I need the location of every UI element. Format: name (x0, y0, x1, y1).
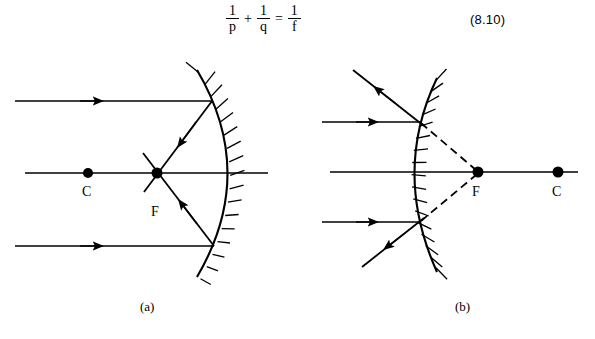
reflected-ray-upper-a (144, 101, 212, 192)
center-of-curvature-label-a: C (82, 184, 91, 199)
focal-point-label-a: F (151, 204, 159, 219)
focal-point-label-b: F (472, 184, 480, 199)
reflected-ray-lower-a (143, 153, 214, 246)
mirror-ray-diagrams: C F (a) (0, 0, 595, 339)
mirror-hatching-b (412, 69, 448, 279)
figure-page: 1 p + 1 q = 1 f (8.10) (0, 0, 595, 339)
ray-diagram-svg: C F (a) (0, 0, 595, 339)
focal-point-a (152, 168, 163, 179)
center-of-curvature-point-a (83, 168, 93, 178)
reflected-ray-lower-b-arrow (387, 233, 405, 247)
center-of-curvature-point-b (553, 167, 564, 178)
panel-a-caption: (a) (140, 299, 154, 314)
focal-point-b (473, 167, 484, 178)
virtual-ray-upper-b (421, 123, 476, 170)
panel-a-concave-mirror: C F (a) (15, 62, 268, 314)
reflected-ray-upper-b-arrow (377, 89, 395, 103)
virtual-ray-lower-b (421, 175, 476, 221)
reflected-ray-lower-a-arrow (181, 203, 197, 224)
panel-b-convex-mirror: F C (b) (322, 69, 578, 314)
reflected-ray-upper-a-arrow (180, 122, 196, 144)
panel-b-caption: (b) (455, 299, 470, 314)
center-of-curvature-label-b: C (552, 184, 561, 199)
